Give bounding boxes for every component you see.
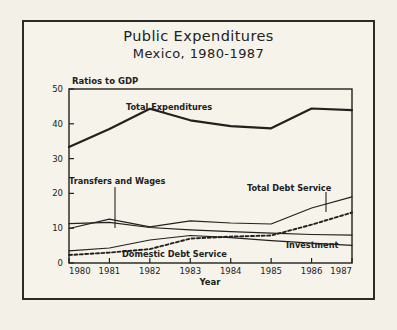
series-label-total-expenditures: Total Expenditures [126, 102, 212, 112]
series-path-total-debt-service [69, 197, 352, 229]
x-tick-label: 1985 [260, 266, 282, 276]
series-label-investment: Investment [286, 240, 338, 250]
series-label-total-debt-service: Total Debt Service [247, 183, 332, 193]
x-tick-label: 1986 [301, 266, 323, 276]
y-tick-label: 20 [52, 188, 63, 198]
x-axis-title: Year [198, 277, 221, 287]
x-tick-label: 1982 [139, 266, 161, 276]
x-axis-ticks: 19801981198219831984198519861987 [69, 258, 352, 276]
y-tick-label: 10 [52, 223, 63, 233]
y-tick-label: 50 [52, 84, 63, 94]
y-tick-label: 0 [58, 258, 63, 268]
y-tick-label: 30 [52, 154, 63, 164]
x-tick-label: 1984 [220, 266, 242, 276]
x-tick-label: 1987 [330, 266, 352, 276]
chart-page: Public Expenditures Mexico, 1980-1987 Ra… [0, 0, 397, 330]
x-tick-label: 1983 [179, 266, 201, 276]
y-axis-title: Ratios to GDP [72, 76, 138, 86]
x-tick-label: 1980 [69, 266, 91, 276]
series-path-transfers-and-wages [69, 222, 352, 235]
series-path-total-expenditures [69, 109, 352, 148]
series-label-domestic-debt-service: Domestic Debt Service [122, 249, 227, 259]
series-label-transfers-and-wages: Transfers and Wages [69, 176, 166, 186]
x-tick-label: 1981 [99, 266, 121, 276]
line-chart: Ratios to GDP 01020304050 19801981198219… [0, 0, 397, 330]
y-tick-label: 40 [52, 119, 63, 129]
